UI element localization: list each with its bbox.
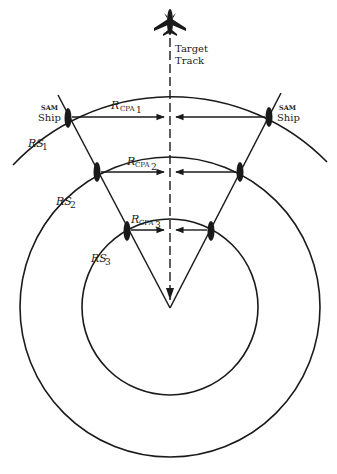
rs2-label: RS 2 — [55, 195, 76, 210]
svg-text:CPA: CPA — [135, 161, 150, 169]
svg-text:R: R — [130, 213, 139, 226]
right-ship-label-bottom: Ship — [277, 112, 300, 123]
svg-text:1: 1 — [136, 105, 142, 115]
left-ship-label-bottom: Ship — [38, 112, 61, 123]
target-label-line1: Target — [175, 43, 208, 54]
svg-text:1: 1 — [42, 142, 48, 152]
ship-icon-right-1 — [266, 107, 273, 127]
rs3-label: RS 3 — [90, 252, 111, 267]
track-arrowhead — [166, 288, 174, 300]
right-ship-label-top: SAM — [279, 104, 296, 112]
right-converge-line — [170, 93, 281, 308]
ship-icon-left-3 — [124, 221, 131, 241]
svg-text:R: R — [126, 155, 135, 168]
ship-icon-right-3 — [208, 221, 215, 241]
svg-text:2: 2 — [151, 162, 157, 172]
rs1-label: RS 1 — [27, 137, 48, 152]
svg-text:CPA: CPA — [120, 105, 135, 113]
svg-text:CPA: CPA — [139, 219, 154, 227]
target-label-line2: Track — [175, 55, 205, 66]
rcpa3-label: R CPA 3 — [130, 213, 161, 230]
svg-text:R: R — [110, 99, 119, 112]
svg-text:3: 3 — [105, 257, 111, 267]
ship-icon-left-1 — [65, 108, 72, 128]
svg-text:3: 3 — [155, 220, 161, 230]
svg-text:2: 2 — [70, 200, 76, 210]
left-ship-label-top: SAM — [41, 104, 58, 112]
ship-icon-left-2 — [94, 162, 101, 182]
aircraft-icon — [154, 9, 186, 36]
cpa-diagram: Target Track SAM Ship SAM Ship RS 1 RS 2… — [0, 0, 337, 474]
ship-icon-right-2 — [237, 162, 244, 182]
